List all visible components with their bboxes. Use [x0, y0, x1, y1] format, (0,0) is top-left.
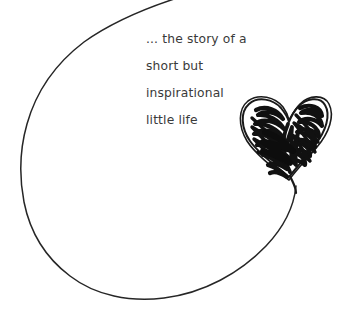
caption-line-2: short but	[146, 53, 276, 80]
illustration-canvas: ... the story of a short but inspiration…	[0, 0, 349, 317]
caption-line-3: inspirational	[146, 80, 276, 107]
caption-block: ... the story of a short but inspiration…	[146, 26, 276, 134]
caption-line-1: ... the story of a	[146, 26, 276, 53]
caption-line-4: little life	[146, 107, 276, 134]
